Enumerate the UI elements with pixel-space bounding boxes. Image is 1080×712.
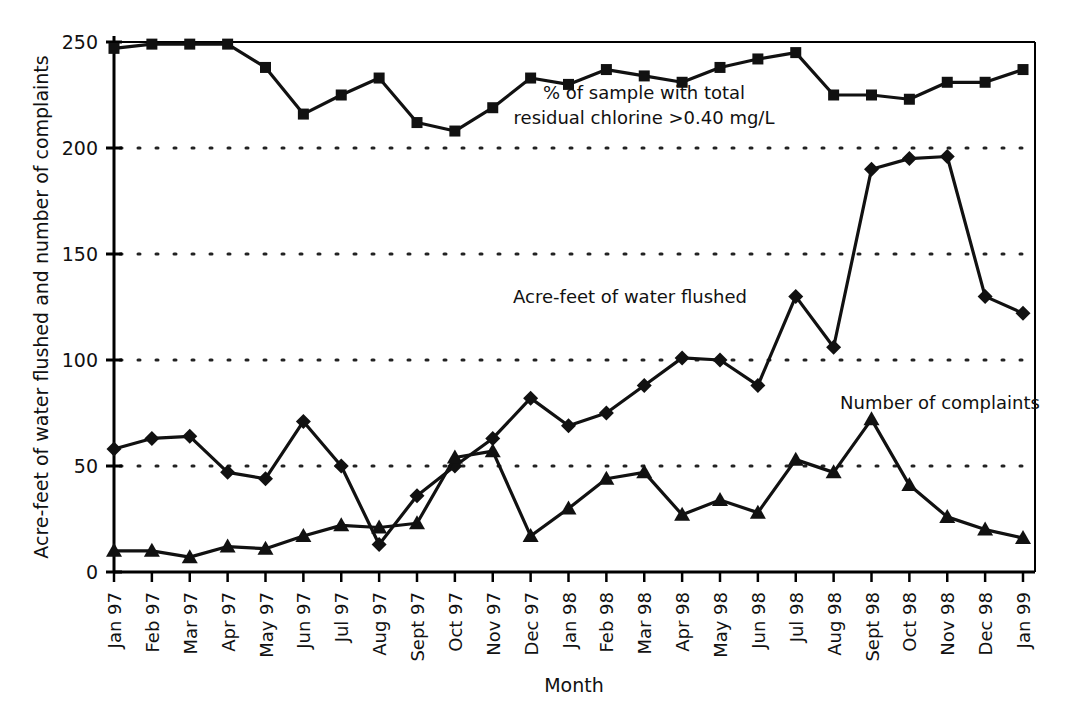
data-point-marker	[715, 62, 726, 73]
data-point-marker	[639, 70, 650, 81]
data-point-marker	[1018, 64, 1029, 75]
data-point-marker	[980, 77, 991, 88]
x-tick-label: Sept 97	[407, 592, 428, 662]
data-point-marker	[260, 62, 271, 73]
data-point-marker	[184, 39, 195, 50]
y-tick-label: 150	[62, 243, 98, 265]
y-tick-label: 100	[62, 349, 98, 371]
x-tick-label: Apr 97	[218, 592, 239, 652]
annot-chlorine-line-1: % of sample with total	[543, 82, 745, 103]
data-point-marker	[752, 53, 763, 64]
x-tick-label: Aug 97	[369, 592, 390, 656]
x-tick-label: Nov 97	[483, 592, 504, 656]
x-tick-label: Feb 98	[596, 592, 617, 653]
x-tick-label: Jan 97	[104, 592, 125, 649]
x-tick-label: Jan 98	[559, 592, 580, 649]
data-point-marker	[412, 117, 423, 128]
annotation-complaints: Number of complaints	[840, 392, 1040, 413]
data-point-marker	[942, 77, 953, 88]
line-chart: 050100150200250 Jan 97Feb 97Mar 97Apr 97…	[0, 0, 1080, 712]
y-tick-label: 50	[74, 455, 98, 477]
x-tick-label: May 97	[256, 592, 277, 658]
data-point-marker	[336, 90, 347, 101]
y-axis-title: Acre-feet of water flushed and number of…	[30, 55, 52, 558]
y-tick-label: 0	[86, 561, 98, 583]
x-axis-title: Month	[544, 674, 604, 696]
x-tick-label: May 98	[710, 592, 731, 658]
x-tick-label: Mar 98	[634, 592, 655, 655]
x-tick-label: Jun 97	[293, 592, 314, 650]
data-point-marker	[109, 43, 120, 54]
data-point-marker	[146, 39, 157, 50]
x-tick-label: Jul 97	[331, 592, 352, 643]
data-point-marker	[222, 39, 233, 50]
data-point-marker	[298, 109, 309, 120]
x-tick-label: Oct 97	[445, 592, 466, 652]
annot-complaints-line-1: Number of complaints	[840, 392, 1040, 413]
annotation-acrefeet: Acre-feet of water flushed	[513, 286, 747, 307]
x-tick-label: Mar 97	[180, 592, 201, 655]
x-tick-label: Oct 98	[899, 592, 920, 652]
x-tick-label: Feb 97	[142, 592, 163, 653]
data-point-marker	[525, 73, 536, 84]
x-tick-label: Aug 98	[824, 592, 845, 656]
data-point-marker	[790, 47, 801, 58]
x-tick-label: Jan 99	[1013, 592, 1034, 649]
x-tick-label: Dec 97	[521, 592, 542, 655]
data-point-marker	[449, 126, 460, 137]
x-tick-label: Sept 98	[862, 592, 883, 662]
data-point-marker	[374, 73, 385, 84]
data-point-marker	[487, 102, 498, 113]
x-tick-label: Apr 98	[672, 592, 693, 652]
x-tick-label: Nov 98	[937, 592, 958, 656]
chart-root: 050100150200250 Jan 97Feb 97Mar 97Apr 97…	[0, 0, 1080, 712]
x-tick-label: Jul 98	[786, 592, 807, 643]
data-point-marker	[866, 90, 877, 101]
annot-chlorine-line-2: residual chlorine >0.40 mg/L	[514, 107, 775, 128]
data-point-marker	[904, 94, 915, 105]
data-point-marker	[828, 90, 839, 101]
y-tick-label: 250	[62, 31, 98, 53]
x-tick-label: Jun 98	[748, 592, 769, 650]
annot-acrefeet-line-1: Acre-feet of water flushed	[513, 286, 747, 307]
data-point-marker	[601, 64, 612, 75]
y-tick-label: 200	[62, 137, 98, 159]
x-tick-label: Dec 98	[975, 592, 996, 655]
